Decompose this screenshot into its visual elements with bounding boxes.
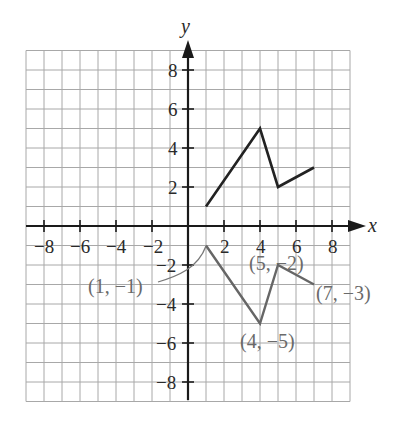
point-label-4-neg5: (4, −5) <box>240 330 295 353</box>
point-label-1-neg1: (1, −1) <box>88 275 143 298</box>
x-axis-label: x <box>367 214 377 236</box>
y-axis-label: y <box>179 15 190 38</box>
x-axis-arrow-icon <box>348 220 366 232</box>
x-tick-label: 8 <box>328 236 338 257</box>
coordinate-plane: x y −8 −6 −4 −2 2 4 6 8 8 6 4 2 −2 −4 −6… <box>0 0 406 421</box>
y-tick-label: 4 <box>168 138 178 159</box>
x-tick-label: −6 <box>70 236 90 257</box>
y-axis-arrow-icon <box>182 40 194 58</box>
y-tick-label: −8 <box>156 372 176 393</box>
x-tick-label: 2 <box>220 236 230 257</box>
y-tick-label: 6 <box>168 99 178 120</box>
y-tick-label: −2 <box>156 255 176 276</box>
point-label-7-neg3: (7, −3) <box>316 282 371 305</box>
point-label-5-neg2: (5, −2) <box>249 252 304 275</box>
x-tick-label: −8 <box>34 236 54 257</box>
x-tick-label: −4 <box>106 236 127 257</box>
y-tick-label: −4 <box>156 294 177 315</box>
y-tick-label: −6 <box>156 333 176 354</box>
y-tick-label: 2 <box>168 177 178 198</box>
y-tick-label: 8 <box>168 60 178 81</box>
x-tick-label: −2 <box>143 236 163 257</box>
